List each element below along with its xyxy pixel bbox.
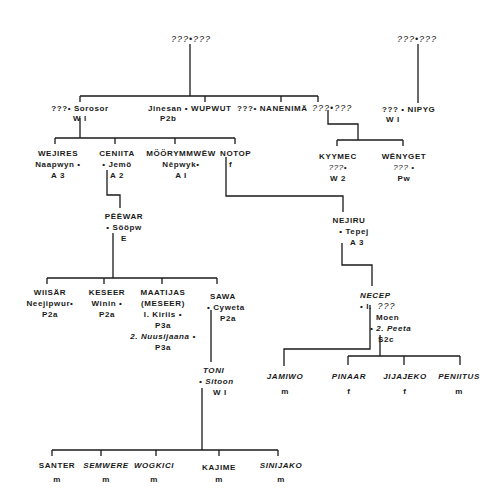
node-toni-spouse: • Sitoon bbox=[199, 376, 234, 387]
node-wiisar-code: P2a bbox=[26, 309, 73, 320]
node-keseer-name: KESEER bbox=[89, 287, 126, 298]
node-necep-spouse-1: Moen bbox=[360, 312, 411, 323]
node-moorymmwew: MÖÖRYMMWĒW Nēpwyk• A I bbox=[146, 148, 216, 181]
node-wiisar-spouse: Neejipwur• bbox=[26, 298, 73, 309]
node-nanenima: ???• NANENIMÄ bbox=[237, 104, 308, 114]
node-maatijas-spouse-1: I. Kiriis • bbox=[130, 309, 196, 320]
node-semwere-name: SEMWERE bbox=[83, 459, 129, 473]
node-nipyg-name: ??? • NIPYG bbox=[382, 105, 435, 115]
node-sawa-name: SAWA bbox=[207, 291, 245, 302]
node-sawa: SAWA • Cyweta P2a bbox=[207, 291, 245, 324]
node-wenyget-code: Pw bbox=[382, 173, 427, 184]
node-sinijako: SINIJAKO m bbox=[260, 459, 303, 487]
node-maatijas: MAATIJAS (MESEER) I. Kiriis • P3a 2. Nuu… bbox=[130, 287, 196, 353]
node-maatijas-spouse-2: 2. Nuusijaana • bbox=[130, 331, 196, 342]
node-pinaar-sex: f bbox=[332, 384, 366, 399]
node-moorymmwew-code: A I bbox=[146, 170, 216, 181]
node-ceniita-name: CENIITA bbox=[99, 148, 135, 159]
node-wogkici-sex: m bbox=[134, 473, 174, 487]
node-santer: SANTER m bbox=[39, 459, 76, 487]
node-wejires-code: A 3 bbox=[35, 170, 81, 181]
node-jijajeko-sex: f bbox=[383, 384, 426, 399]
node-necep-name: NECEP bbox=[360, 290, 411, 301]
node-sorosor-code: W I bbox=[51, 114, 109, 124]
node-kajime-name: KAJIME bbox=[202, 462, 236, 474]
node-keseer-code: P2a bbox=[89, 309, 126, 320]
node-nejiru-name: NEJIRU bbox=[329, 215, 369, 226]
node-wogkici-name: WOGKICI bbox=[134, 459, 174, 473]
node-peniitus-name: PENIITUS bbox=[438, 369, 480, 384]
node-sawa-code: P2a bbox=[207, 313, 245, 324]
node-wenyget-spouse: ??? • bbox=[382, 162, 427, 173]
node-sinijako-sex: m bbox=[260, 473, 303, 487]
node-moorymmwew-spouse: Nēpwyk• bbox=[146, 159, 216, 170]
root-left-couple: ???•??? bbox=[171, 34, 211, 44]
node-keseer-spouse: Winin • bbox=[89, 298, 126, 309]
node-semwere: SEMWERE m bbox=[83, 459, 129, 487]
node-wenyget-name: WĒNYGET bbox=[382, 151, 427, 162]
node-peewar-name: PĒĒWAR bbox=[105, 211, 143, 222]
node-necep-code: S2c bbox=[360, 334, 411, 345]
node-jijajeko-name: JIJAJEKO bbox=[383, 369, 426, 384]
node-peewar: PĒĒWAR • Sööpw E bbox=[105, 211, 143, 244]
node-wejires-spouse: Naapwyn • bbox=[35, 159, 81, 170]
node-nipyg: ??? • NIPYG W I bbox=[382, 105, 435, 125]
node-kyymec-spouse: ???• bbox=[319, 162, 357, 173]
node-ceniita-spouse: • Jemö bbox=[99, 159, 135, 170]
node-nejiru: NEJIRU • Tepej A 3 bbox=[329, 215, 369, 248]
node-jamiwo: JAMIWO m bbox=[267, 369, 304, 399]
connector-lines bbox=[0, 0, 501, 499]
node-wiisar: WIISÄR Neejipwur• P2a bbox=[26, 287, 73, 320]
node-wupwut-code: P2b bbox=[148, 114, 232, 124]
node-notop: NOTOP f bbox=[220, 148, 251, 170]
node-wupwut-name: Jinesan • WUPWUT bbox=[148, 104, 232, 114]
node-nipyg-code: W I bbox=[382, 115, 435, 125]
node-kyymec-name: KYYMEC bbox=[319, 151, 357, 162]
node-kajime-sex: m bbox=[202, 474, 236, 486]
node-maatijas-code-2: P3a bbox=[130, 342, 196, 353]
node-kyymec-code: W 2 bbox=[319, 173, 357, 184]
node-jamiwo-name: JAMIWO bbox=[267, 369, 304, 384]
node-peniitus: PENIITUS m bbox=[438, 369, 480, 399]
node-semwere-sex: m bbox=[83, 473, 129, 487]
node-jijajeko: JIJAJEKO f bbox=[383, 369, 426, 399]
root-right-couple: ???•??? bbox=[397, 34, 437, 44]
node-wogkici: WOGKICI m bbox=[134, 459, 174, 487]
node-moorymmwew-name: MÖÖRYMMWĒW bbox=[146, 148, 216, 159]
node-wiisar-name: WIISÄR bbox=[26, 287, 73, 298]
node-wupwut: Jinesan • WUPWUT P2b bbox=[148, 104, 232, 124]
node-maatijas-code-1: P3a bbox=[130, 320, 196, 331]
node-necep-spouse-2: • 2. Peeta bbox=[360, 323, 411, 334]
node-ceniita-code: A 2 bbox=[99, 170, 135, 181]
node-wejires-name: WEJIRES bbox=[35, 148, 81, 159]
node-necep-spouse-1-unknown: ??? bbox=[378, 301, 396, 311]
node-santer-sex: m bbox=[39, 473, 76, 487]
node-sorosor-name: ???• Sorosor bbox=[51, 104, 109, 114]
node-maatijas-alias: (MESEER) bbox=[130, 298, 196, 309]
node-wenyget: WĒNYGET ??? • Pw bbox=[382, 151, 427, 184]
node-sorosor: ???• Sorosor W I bbox=[51, 104, 109, 124]
node-sawa-spouse: • Cyweta bbox=[207, 302, 245, 313]
node-ceniita: CENIITA • Jemö A 2 bbox=[99, 148, 135, 181]
node-notop-sex: f bbox=[220, 159, 251, 170]
node-necep-marriage-1: • I. bbox=[360, 302, 372, 311]
node-sinijako-name: SINIJAKO bbox=[260, 459, 303, 473]
node-peewar-code: E bbox=[105, 233, 143, 244]
node-notop-name: NOTOP bbox=[220, 148, 251, 159]
node-necep: NECEP • I. ??? Moen • 2. Peeta S2c bbox=[360, 290, 411, 345]
node-toni-code: W I bbox=[203, 387, 234, 398]
node-nejiru-code: A 3 bbox=[329, 237, 369, 248]
node-unknown-pair: ???•??? bbox=[312, 103, 352, 113]
node-peewar-spouse: • Sööpw bbox=[105, 222, 143, 233]
node-pinaar: PINAAR f bbox=[332, 369, 366, 399]
node-peniitus-sex: m bbox=[438, 384, 480, 399]
node-pinaar-name: PINAAR bbox=[332, 369, 366, 384]
node-maatijas-name: MAATIJAS bbox=[130, 287, 196, 298]
node-jamiwo-sex: m bbox=[267, 384, 304, 399]
node-toni-name: TONI bbox=[203, 365, 234, 376]
node-nejiru-spouse: • Tepej bbox=[329, 226, 369, 237]
node-santer-name: SANTER bbox=[39, 459, 76, 473]
node-kajime: KAJIME m bbox=[202, 462, 236, 486]
node-keseer: KESEER Winin • P2a bbox=[89, 287, 126, 320]
node-kyymec: KYYMEC ???• W 2 bbox=[319, 151, 357, 184]
